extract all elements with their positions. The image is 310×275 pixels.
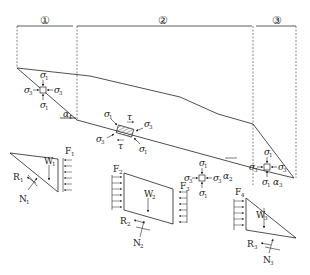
- zone-headers: ① ② ③: [17, 14, 296, 27]
- stress-element-shear: σ 1 σ 3 σ 3 σ 1 τ τ: [96, 109, 153, 155]
- svg-text:2: 2: [127, 221, 131, 227]
- svg-text:1: 1: [69, 114, 73, 120]
- free-body-block-1: W 1 F 1 R 1 N 1: [10, 146, 75, 205]
- free-body-block-2: W 2 F 2 F 3 R 2 N 2: [112, 164, 190, 249]
- free-body-block-3: W 3 F 4 R 3 N 3: [234, 187, 296, 266]
- svg-text:3: 3: [149, 124, 153, 130]
- svg-text:3: 3: [189, 178, 193, 184]
- svg-text:τ: τ: [118, 141, 124, 151]
- svg-text:R: R: [13, 172, 20, 182]
- zone-2-label: ②: [158, 14, 168, 27]
- svg-text:R: R: [120, 216, 127, 226]
- svg-text:3: 3: [254, 244, 258, 250]
- svg-text:3: 3: [264, 215, 268, 221]
- svg-text:3: 3: [270, 260, 274, 266]
- svg-text:3: 3: [283, 167, 287, 173]
- svg-text:3: 3: [29, 90, 33, 96]
- svg-text:1: 1: [204, 193, 208, 199]
- svg-text:3: 3: [186, 186, 190, 192]
- svg-text:3: 3: [279, 182, 283, 188]
- svg-text:3: 3: [254, 167, 258, 173]
- svg-text:3: 3: [59, 90, 63, 96]
- svg-text:2: 2: [140, 243, 144, 249]
- svg-text:1: 1: [204, 163, 208, 169]
- svg-text:1: 1: [52, 161, 56, 167]
- svg-text:2: 2: [229, 176, 233, 182]
- stress-element-1: σ 1 σ 1 σ 3 σ 3: [24, 70, 63, 111]
- svg-text:3: 3: [101, 139, 105, 145]
- svg-text:1: 1: [20, 177, 24, 183]
- svg-text:1: 1: [45, 75, 49, 81]
- slope-force-diagram: ① ② ③ α 1 σ 1 σ 1 σ 3 σ 3: [0, 0, 310, 275]
- svg-text:1: 1: [26, 199, 30, 205]
- stress-element-3: σ 1 σ 1 σ 3 σ 3 α 3: [249, 147, 287, 188]
- svg-text:4: 4: [241, 192, 245, 198]
- svg-text:1: 1: [269, 152, 273, 158]
- svg-text:1: 1: [144, 149, 148, 155]
- svg-text:2: 2: [119, 169, 123, 175]
- svg-text:3: 3: [218, 178, 222, 184]
- svg-text:τ: τ: [127, 112, 133, 122]
- zone-1-label: ①: [40, 14, 50, 27]
- svg-text:1: 1: [109, 114, 113, 120]
- zone-3-label: ③: [272, 14, 282, 27]
- svg-text:1: 1: [267, 182, 271, 188]
- svg-text:1: 1: [71, 151, 75, 157]
- svg-text:1: 1: [45, 105, 49, 111]
- svg-text:2: 2: [152, 194, 156, 200]
- stress-element-2: σ 1 σ 1 σ 3 σ 3: [184, 158, 222, 199]
- angle-alpha-1: α 1: [63, 109, 73, 120]
- svg-text:R: R: [247, 239, 254, 249]
